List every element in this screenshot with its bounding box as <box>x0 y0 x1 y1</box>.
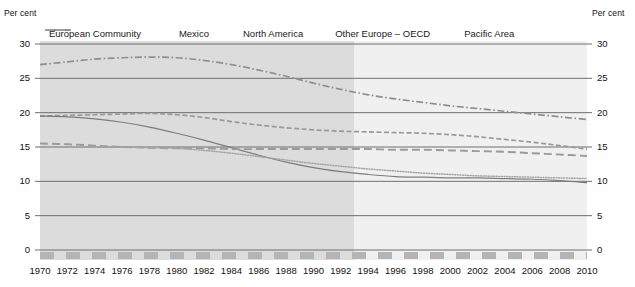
y-axis-tick-label-left: 15 <box>8 141 30 152</box>
y-axis-tick-label-left: 30 <box>8 38 30 49</box>
chart-container: Per cent Per cent European Community Mex… <box>0 0 635 287</box>
background-bands <box>40 41 587 260</box>
y-axis-tick-label-right: 30 <box>597 38 621 49</box>
chart-plot-area <box>0 0 635 287</box>
y-axis-tick-label-left: 10 <box>8 175 30 186</box>
y-axis-ticks-right <box>587 44 592 250</box>
y-axis-tick-label-right: 5 <box>597 210 621 221</box>
y-axis-tick-label-right: 0 <box>597 244 621 255</box>
y-axis-tick-label-right: 20 <box>597 107 621 118</box>
y-axis-tick-label-left: 5 <box>8 210 30 221</box>
y-axis-tick-label-left: 25 <box>8 72 30 83</box>
x-axis-tick-label: 2010 <box>570 265 604 276</box>
y-axis-tick-label-left: 0 <box>8 244 30 255</box>
y-axis-tick-label-right: 15 <box>597 141 621 152</box>
y-axis-tick-label-right: 10 <box>597 175 621 186</box>
y-axis-tick-label-right: 25 <box>597 72 621 83</box>
y-axis-tick-label-left: 20 <box>8 107 30 118</box>
